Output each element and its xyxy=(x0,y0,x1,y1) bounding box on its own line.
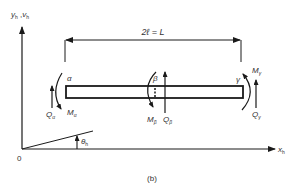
point-alpha-label: α xyxy=(67,74,72,83)
Q-gamma-label: Qγ xyxy=(252,110,261,120)
M-gamma-label: Mγ xyxy=(252,66,262,76)
moment-alpha-arrow-icon xyxy=(56,73,62,109)
Q-alpha-label: Qα xyxy=(46,110,55,120)
figure-caption: (b) xyxy=(147,174,157,183)
x-axis-label: xh xyxy=(277,145,285,155)
angle-label: θh xyxy=(81,137,88,147)
origin-label: 0 xyxy=(17,154,22,163)
dimension-label: 2ℓ = L xyxy=(140,27,164,37)
y-axis-label: yh ,vh xyxy=(10,10,29,20)
point-gamma-label: γ xyxy=(236,75,241,84)
Q-beta-label: Qβ xyxy=(163,115,172,125)
M-alpha-label: Mα xyxy=(67,108,77,118)
point-beta-label: β xyxy=(152,74,158,83)
M-beta-label: Mβ xyxy=(147,115,157,125)
beam-element-diagram: yh ,vh xh 0 θh 2ℓ = L α Qα Mα β Mβ xyxy=(0,0,292,187)
length-dimension: 2ℓ = L xyxy=(65,27,241,62)
